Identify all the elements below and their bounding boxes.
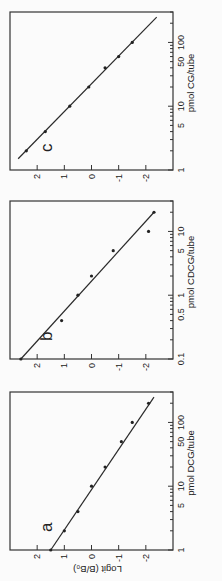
y-tick-label: 0	[87, 363, 97, 368]
data-point	[112, 249, 115, 252]
y-tick-label: 0	[87, 174, 97, 179]
data-point	[120, 440, 123, 443]
data-point	[152, 211, 155, 214]
data-point	[63, 529, 66, 532]
y-axis-label: Logit (B/B₀)	[73, 564, 122, 575]
x-tick-label: 5	[176, 503, 186, 508]
panel-a: 151050100pmol DCG/tube210-1-2Logit (B/B₀…	[10, 392, 196, 575]
data-point	[131, 41, 134, 44]
x-axis-label: pmol CDCG/tube	[185, 236, 196, 308]
y-tick-label: -2	[141, 554, 151, 562]
data-point	[60, 319, 63, 322]
regression-line	[51, 397, 154, 550]
y-tick-label: -2	[141, 174, 151, 182]
data-point	[131, 421, 134, 424]
plot-frame	[10, 12, 173, 170]
data-point	[49, 548, 52, 551]
x-tick-label: 1	[176, 167, 186, 172]
data-point	[90, 485, 93, 488]
panel-label: c	[37, 143, 56, 152]
y-tick-label: 0	[87, 554, 97, 559]
figure-stage: 151050100pmol DCG/tube210-1-2Logit (B/B₀…	[0, 0, 222, 581]
data-point	[76, 510, 79, 513]
x-tick-label: 5	[176, 123, 186, 128]
plot-frame	[10, 392, 173, 550]
calibration-curves-figure: 151050100pmol DCG/tube210-1-2Logit (B/B₀…	[0, 0, 222, 581]
y-tick-label: -2	[141, 363, 151, 371]
regression-line	[21, 212, 154, 359]
panel-b: 0.10.51510pmol CDCG/tube210-1-2b	[10, 201, 196, 371]
panel-label: b	[37, 332, 56, 341]
y-tick-label: 2	[32, 174, 42, 179]
x-axis-label: pmol DCG/tube	[185, 430, 196, 495]
data-point	[68, 105, 71, 108]
y-tick-label: 1	[59, 554, 69, 559]
data-point	[19, 357, 22, 360]
y-tick-label: -1	[114, 554, 124, 562]
panel-c: 151050100pmol CG/tube210-1-2c	[10, 12, 196, 182]
y-tick-label: 2	[32, 363, 42, 368]
y-tick-label: 2	[32, 554, 42, 559]
y-tick-label: 1	[59, 363, 69, 368]
data-point	[147, 230, 150, 233]
x-tick-label: 100	[176, 415, 186, 430]
data-point	[90, 274, 93, 277]
data-point	[25, 149, 28, 152]
x-tick-label: 1	[176, 547, 186, 552]
data-point	[76, 294, 79, 297]
data-point	[103, 66, 106, 69]
x-tick-label: 0.1	[176, 353, 186, 366]
panel-label: a	[37, 522, 56, 532]
data-point	[103, 465, 106, 468]
y-tick-label: -1	[114, 174, 124, 182]
data-point	[44, 130, 47, 133]
y-tick-label: -1	[114, 363, 124, 371]
regression-line	[18, 17, 157, 159]
data-point	[147, 402, 150, 405]
y-tick-label: 1	[59, 174, 69, 179]
x-axis-label: pmol CG/tube	[185, 54, 196, 113]
data-point	[87, 85, 90, 88]
data-point	[117, 55, 120, 58]
x-tick-label: 0.5	[176, 308, 186, 321]
x-tick-label: 100	[176, 35, 186, 50]
plot-frame	[10, 201, 173, 359]
